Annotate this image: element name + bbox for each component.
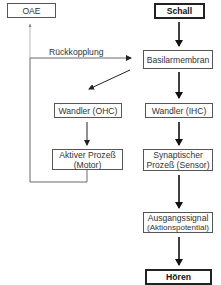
node-ausgangssignal-line1: Ausgangssignal [148, 213, 209, 223]
node-oae: OAE [7, 3, 56, 18]
node-aktiver-prozess-line2: (Motor) [74, 160, 102, 170]
node-schall: Schall [154, 3, 205, 19]
node-wandler-ohc-label: Wandler (OHC) [59, 106, 118, 116]
node-schall-label: Schall [167, 6, 192, 16]
node-hoeren-label: Hören [166, 272, 191, 282]
node-wandler-ihc-label: Wandler (IHC) [152, 106, 207, 116]
node-ausgangssignal-line2: (Aktionspotential) [147, 223, 209, 233]
node-wandler-ohc: Wandler (OHC) [54, 103, 122, 118]
node-synaptischer-line1: Synaptischer [153, 150, 203, 160]
node-basilarmembran-label: Basilarmembran [147, 55, 210, 65]
arrow-basilar-ohc [89, 70, 130, 89]
node-aktiver-prozess: Aktiver Prozeß (Motor) [52, 149, 123, 170]
oae-arrow-tip [29, 24, 32, 28]
node-basilarmembran: Basilarmembran [143, 50, 213, 69]
node-oae-label: OAE [22, 6, 40, 16]
feedback-label: Rückkopplung [49, 47, 103, 57]
node-wandler-ihc: Wandler (IHC) [145, 103, 213, 118]
node-synaptischer-prozess: Synaptischer Prozeß (Sensor) [143, 149, 213, 171]
node-hoeren: Hören [145, 269, 212, 285]
node-aktiver-prozess-line1: Aktiver Prozeß [59, 150, 115, 160]
node-ausgangssignal: Ausgangssignal (Aktionspotential) [143, 212, 213, 233]
node-synaptischer-line2: Prozeß (Sensor) [146, 160, 209, 170]
